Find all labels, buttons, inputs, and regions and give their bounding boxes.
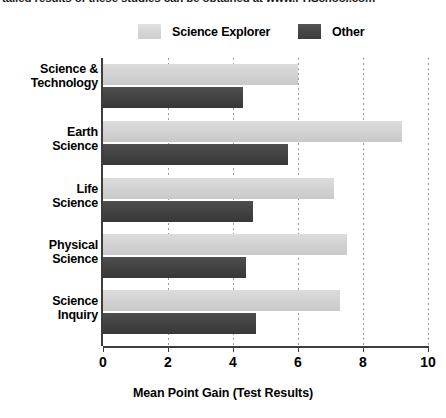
gridline bbox=[428, 58, 429, 346]
category-label: EarthScience bbox=[2, 125, 98, 153]
x-axis-tick-label: 10 bbox=[408, 354, 446, 370]
bar-other bbox=[103, 313, 256, 334]
legend-label-other: Other bbox=[332, 25, 364, 39]
x-axis-tick-label: 8 bbox=[343, 354, 383, 370]
bar-science-explorer bbox=[103, 64, 298, 85]
x-axis-tick bbox=[103, 346, 104, 352]
bar-other bbox=[103, 87, 243, 108]
bar-science-explorer bbox=[103, 234, 347, 255]
x-axis-tick bbox=[168, 346, 169, 352]
bar-other bbox=[103, 257, 246, 278]
bar-group bbox=[103, 234, 428, 280]
legend-item-science-explorer: Science Explorer bbox=[138, 24, 270, 39]
caption-strip: tailed results of these studies can be o… bbox=[0, 0, 446, 9]
legend-swatch-other bbox=[298, 24, 321, 39]
bar-group bbox=[103, 290, 428, 336]
x-axis-line bbox=[103, 346, 428, 348]
category-label: LifeScience bbox=[2, 182, 98, 210]
bar-group bbox=[103, 121, 428, 167]
bar-science-explorer bbox=[103, 121, 402, 142]
legend-item-other: Other bbox=[298, 24, 364, 39]
category-label: PhysicalScience bbox=[2, 238, 98, 266]
category-axis-labels: Science &TechnologyEarthScienceLifeScien… bbox=[0, 58, 98, 346]
legend-swatch-science-explorer bbox=[138, 24, 161, 39]
x-axis-tick bbox=[363, 346, 364, 352]
x-axis-tick bbox=[233, 346, 234, 352]
bar-other bbox=[103, 144, 288, 165]
x-axis-tick-label: 6 bbox=[278, 354, 318, 370]
x-axis-tick-label: 0 bbox=[83, 354, 123, 370]
legend-label-science-explorer: Science Explorer bbox=[172, 25, 270, 39]
caption-text: tailed results of these studies can be o… bbox=[2, 0, 446, 4]
x-axis-title: Mean Point Gain (Test Results) bbox=[0, 386, 446, 400]
chart-legend: Science Explorer Other bbox=[0, 24, 446, 46]
x-axis-tick-label: 2 bbox=[148, 354, 188, 370]
category-label: ScienceInquiry bbox=[2, 294, 98, 322]
chart-plot-area: Science &TechnologyEarthScienceLifeScien… bbox=[0, 58, 446, 358]
category-label: Science &Technology bbox=[2, 62, 98, 90]
bar-science-explorer bbox=[103, 178, 334, 199]
x-axis-tick bbox=[298, 346, 299, 352]
x-axis-tick bbox=[428, 346, 429, 352]
bar-group bbox=[103, 64, 428, 110]
x-axis-tick-label: 4 bbox=[213, 354, 253, 370]
bar-other bbox=[103, 201, 253, 222]
bar-science-explorer bbox=[103, 290, 340, 311]
bar-group bbox=[103, 178, 428, 224]
bars-container bbox=[103, 58, 428, 346]
